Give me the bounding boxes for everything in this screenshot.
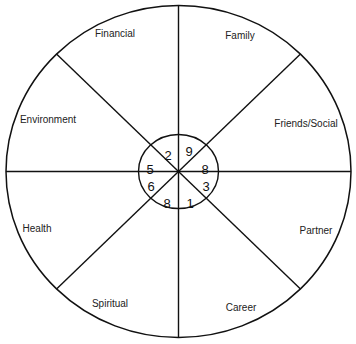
segment-label-spiritual: Spiritual <box>92 298 128 309</box>
segment-label-environment: Environment <box>20 114 76 125</box>
segment-label-financial: Financial <box>95 28 135 39</box>
segment-label-friends-social: Friends/Social <box>274 118 337 129</box>
segment-label-career: Career <box>226 302 257 313</box>
segment-label-partner: Partner <box>300 225 333 236</box>
segment-score-health: 6 <box>147 179 154 194</box>
segment-score-friends-social: 8 <box>201 162 208 177</box>
segment-score-financial: 2 <box>164 148 171 163</box>
segment-score-partner: 3 <box>202 179 209 194</box>
wheel-of-life-diagram: FamilyFriends/SocialPartnerCareerSpiritu… <box>0 0 356 344</box>
segment-score-family: 9 <box>185 144 192 159</box>
segment-label-family: Family <box>225 30 254 41</box>
segment-label-health: Health <box>23 223 52 234</box>
segment-score-environment: 5 <box>146 162 153 177</box>
segment-score-spiritual: 8 <box>163 196 170 211</box>
segment-score-career: 1 <box>186 196 193 211</box>
spokes <box>6 6 351 338</box>
